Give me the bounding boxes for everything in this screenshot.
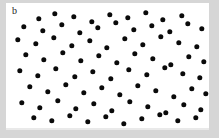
scatter-dot xyxy=(162,65,167,70)
scatter-dot xyxy=(91,101,96,106)
scatter-dot xyxy=(126,67,131,72)
scatter-dot xyxy=(199,26,204,31)
scatter-dot xyxy=(181,102,186,107)
scatter-dot xyxy=(96,53,101,58)
scatter-dot xyxy=(19,100,24,105)
scatter-dot xyxy=(113,20,118,25)
scatter-dot xyxy=(127,99,132,104)
scatter-dot xyxy=(157,112,162,117)
scatter-dot xyxy=(78,58,83,63)
scatter-dot xyxy=(99,85,104,90)
scatter-point-layer xyxy=(6,3,209,128)
scatter-dot xyxy=(103,114,108,119)
scatter-dot xyxy=(21,24,26,29)
scatter-dot xyxy=(17,68,22,73)
scatter-dot xyxy=(135,83,140,88)
scatter-dot xyxy=(168,62,173,67)
scatter-dot xyxy=(121,121,126,126)
scatter-dot xyxy=(176,40,181,45)
scatter-dot xyxy=(85,119,90,124)
scatter-dot xyxy=(198,107,203,112)
scatter-dot xyxy=(87,38,92,43)
scatter-dot xyxy=(185,21,190,26)
scatter-dot xyxy=(144,72,149,77)
scatter-dot xyxy=(186,54,191,59)
scatter-dot xyxy=(109,108,114,113)
scatter-dot xyxy=(77,30,82,35)
scatter-dot xyxy=(51,35,56,40)
scatter-dot xyxy=(59,22,64,27)
scatter-dot xyxy=(63,82,68,87)
scatter-dot xyxy=(31,115,36,120)
scatter-dot xyxy=(72,74,77,79)
scatter-dot xyxy=(179,13,184,18)
scatter-dot xyxy=(160,17,165,22)
scatter-dot xyxy=(37,105,42,110)
scatter-dot xyxy=(143,10,148,15)
scatter-dot xyxy=(131,27,136,32)
scatter-dot xyxy=(203,91,208,96)
scatter-dot xyxy=(45,89,50,94)
scatter-dot xyxy=(53,66,58,71)
scatter-dot xyxy=(117,92,122,97)
scatter-dot xyxy=(153,88,158,93)
figure-panel-b: b xyxy=(0,0,219,138)
scatter-dot xyxy=(175,118,180,123)
scatter-dot xyxy=(189,86,194,91)
scatter-dot xyxy=(89,19,94,24)
scatter-dot xyxy=(49,118,54,123)
scatter-dot xyxy=(140,42,145,47)
scatter-dot xyxy=(139,116,144,121)
scatter-dot xyxy=(60,50,65,55)
scatter-dot xyxy=(145,104,150,109)
scatter-dot xyxy=(158,34,163,39)
scatter-dot xyxy=(36,16,41,21)
scatter-dot xyxy=(71,14,76,19)
scatter-dot xyxy=(107,12,112,17)
panel-bottom-edge xyxy=(6,128,209,130)
scatter-dot xyxy=(149,23,154,28)
scatter-dot xyxy=(41,57,46,62)
scatter-dot xyxy=(104,45,109,50)
scatter-dot xyxy=(33,41,38,46)
scatter-dot xyxy=(193,115,198,120)
scatter-panel: b xyxy=(6,3,209,128)
scatter-dot xyxy=(95,25,100,30)
scatter-dot xyxy=(55,98,60,103)
scatter-dot xyxy=(150,56,155,61)
scatter-dot xyxy=(40,28,45,33)
scatter-dot xyxy=(132,51,137,56)
scatter-dot xyxy=(171,94,176,99)
scatter-dot xyxy=(90,69,95,74)
scatter-dot xyxy=(27,84,32,89)
scatter-dot xyxy=(81,90,86,95)
scatter-dot xyxy=(15,37,20,42)
scatter-dot xyxy=(108,76,113,81)
scatter-dot xyxy=(69,43,74,48)
scatter-dot xyxy=(67,113,72,118)
scatter-dot xyxy=(125,15,130,20)
scatter-dot xyxy=(163,110,168,115)
scatter-dot xyxy=(194,44,199,49)
scatter-dot xyxy=(23,52,28,57)
scatter-dot xyxy=(73,106,78,111)
scatter-dot xyxy=(122,36,127,41)
scatter-dot xyxy=(197,75,202,80)
scatter-dot xyxy=(201,59,206,64)
scatter-dot xyxy=(180,71,185,76)
scatter-dot xyxy=(35,73,40,78)
scatter-dot xyxy=(167,29,172,34)
scatter-dot xyxy=(114,60,119,65)
scatter-dot xyxy=(52,11,57,16)
